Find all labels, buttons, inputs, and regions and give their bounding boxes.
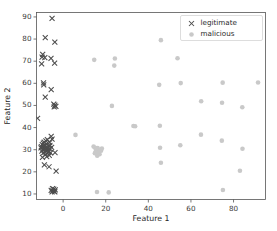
data-point-malicious xyxy=(112,63,117,68)
chart-legend: legitimatemalicious xyxy=(181,16,263,41)
y-tick-label: 50 xyxy=(22,100,32,109)
data-point-malicious xyxy=(100,146,105,151)
data-point-malicious xyxy=(220,138,225,143)
data-point-malicious xyxy=(220,80,225,85)
data-points-group xyxy=(35,16,260,195)
legend-marker-malicious xyxy=(189,32,194,37)
x-tick-label: 40 xyxy=(144,204,154,213)
data-point-legitimate xyxy=(39,61,44,66)
data-point-malicious xyxy=(178,143,183,148)
data-point-malicious xyxy=(159,160,164,165)
data-point-malicious xyxy=(157,83,162,88)
y-tick-label: 40 xyxy=(22,123,32,132)
data-point-malicious xyxy=(158,145,163,150)
y-tick-label: 30 xyxy=(22,145,32,154)
data-point-legitimate xyxy=(35,116,40,121)
legend-label: legitimate xyxy=(201,18,238,27)
data-point-legitimate xyxy=(42,162,47,167)
points-clip-region xyxy=(35,16,260,195)
data-point-malicious xyxy=(199,99,204,104)
scatter-plot-figure: 102030405060708090020406080 legitimatema… xyxy=(0,0,277,231)
y-tick-label: 60 xyxy=(22,78,32,87)
data-point-malicious xyxy=(93,151,98,156)
data-point-malicious xyxy=(133,124,138,129)
y-tick-label: 80 xyxy=(22,34,32,43)
data-point-malicious xyxy=(95,190,100,195)
data-point-malicious xyxy=(106,190,111,195)
data-point-malicious xyxy=(178,81,183,86)
data-point-malicious xyxy=(256,80,261,85)
data-point-legitimate xyxy=(54,169,59,174)
x-tick-label: 60 xyxy=(186,204,196,213)
y-tick-label: 20 xyxy=(22,167,32,176)
data-point-malicious xyxy=(238,168,243,173)
axes-group: 102030405060708090020406080 xyxy=(22,12,265,213)
data-point-malicious xyxy=(159,38,164,43)
legend-label: malicious xyxy=(201,29,235,38)
y-tick-label: 10 xyxy=(22,189,32,198)
data-point-legitimate xyxy=(52,40,57,45)
data-point-malicious xyxy=(158,124,163,129)
data-point-malicious xyxy=(240,105,245,110)
data-point-malicious xyxy=(73,133,78,138)
y-axis-title: Feature 2 xyxy=(3,88,12,125)
x-tick-label: 0 xyxy=(61,204,66,213)
data-point-legitimate xyxy=(43,95,48,100)
x-axis-title: Feature 1 xyxy=(133,214,170,223)
y-tick-label: 70 xyxy=(22,56,32,65)
x-tick-label: 80 xyxy=(229,204,239,213)
data-point-legitimate xyxy=(50,16,55,21)
data-point-malicious xyxy=(240,147,245,152)
data-point-legitimate xyxy=(49,87,54,92)
data-point-malicious xyxy=(92,58,97,63)
data-point-malicious xyxy=(220,100,225,105)
data-point-legitimate xyxy=(40,155,45,160)
data-point-legitimate xyxy=(53,150,58,155)
scatter-plot-canvas: 102030405060708090020406080 legitimatema… xyxy=(0,0,277,231)
data-point-legitimate xyxy=(48,56,53,61)
data-point-legitimate xyxy=(47,164,52,169)
data-point-malicious xyxy=(175,56,180,61)
data-point-malicious xyxy=(113,56,118,61)
data-point-legitimate xyxy=(52,61,57,66)
x-tick-label: 20 xyxy=(101,204,111,213)
data-point-malicious xyxy=(221,188,226,193)
data-point-malicious xyxy=(199,132,204,137)
y-tick-label: 90 xyxy=(22,12,32,21)
data-point-legitimate xyxy=(43,35,48,40)
data-point-malicious xyxy=(110,104,115,109)
